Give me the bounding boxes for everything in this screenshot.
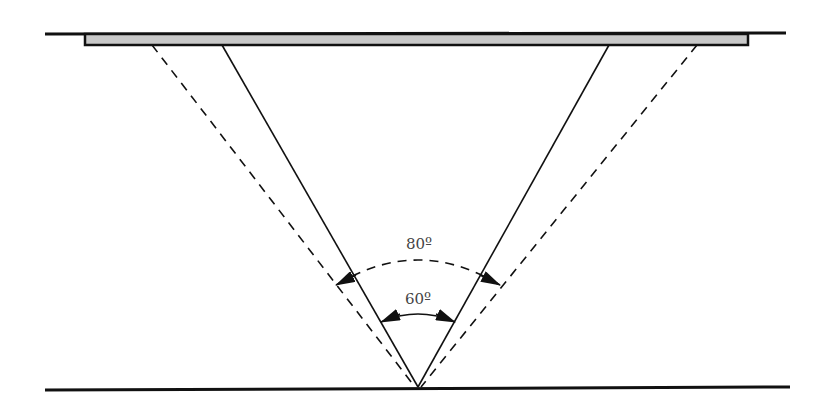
light-fixture-bar <box>85 34 748 45</box>
beam-60-right <box>418 45 609 387</box>
angle-arc-80 <box>338 260 498 284</box>
angle-label-60: 60º <box>405 290 431 308</box>
beam-80-left <box>152 45 415 387</box>
arrowhead-80-left <box>336 275 356 285</box>
angle-diagram-svg: 80º 60º <box>0 0 829 415</box>
diagram: 80º 60º <box>0 0 829 415</box>
angle-label-80: 80º <box>406 235 432 253</box>
arrowhead-60-right <box>436 314 455 322</box>
beam-60-left <box>222 45 418 387</box>
angle-arc-60 <box>383 314 453 321</box>
floor-line <box>45 387 790 390</box>
arrowhead-60-left <box>381 314 400 322</box>
arrowhead-80-right <box>480 275 500 285</box>
beam-80-right <box>421 45 697 387</box>
